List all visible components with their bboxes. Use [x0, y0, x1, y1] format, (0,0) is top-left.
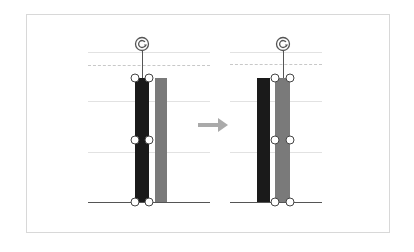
resize-handle-bottom-right[interactable]: [286, 198, 295, 207]
gridline: [230, 52, 322, 53]
resize-handle-middle-left[interactable]: [271, 136, 280, 145]
dashed-gridline: [230, 64, 322, 65]
after-chart: [0, 0, 414, 252]
resize-handle-bottom-left[interactable]: [271, 198, 280, 207]
resize-handle-top-right[interactable]: [286, 74, 295, 83]
bar-series-1[interactable]: [257, 78, 270, 202]
rotate-handle-icon[interactable]: [275, 36, 291, 52]
resize-handle-top-left[interactable]: [271, 74, 280, 83]
resize-handle-middle-right[interactable]: [286, 136, 295, 145]
rotation-stem: [283, 50, 284, 78]
